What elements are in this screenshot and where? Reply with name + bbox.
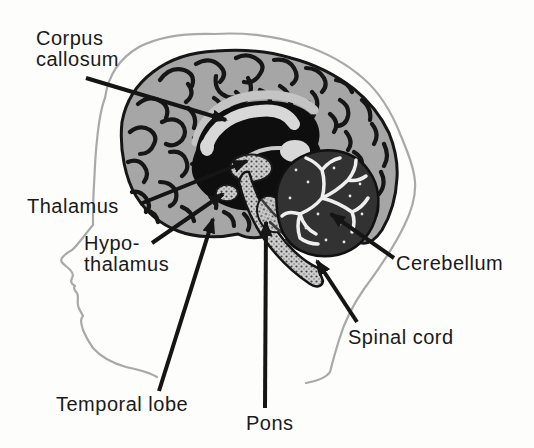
label-temporal-lobe: Temporal lobe xyxy=(56,394,188,415)
label-line: Hypo- xyxy=(84,233,169,254)
label-spinal-cord: Spinal cord xyxy=(348,327,454,348)
arrow-pons xyxy=(265,222,266,408)
label-pons: Pons xyxy=(246,413,294,434)
label-thalamus: Thalamus xyxy=(27,196,119,217)
label-line: Corpus xyxy=(36,28,119,49)
label-hypothalamus: Hypo-thalamus xyxy=(84,233,169,275)
label-line: Temporal lobe xyxy=(56,394,188,415)
label-line: Cerebellum xyxy=(396,253,503,274)
label-line: Pons xyxy=(246,413,294,434)
label-line: Spinal cord xyxy=(348,327,454,348)
label-cerebellum: Cerebellum xyxy=(396,253,503,274)
label-line: Thalamus xyxy=(27,196,119,217)
label-line: callosum xyxy=(36,49,119,70)
arrow-spinal-cord xyxy=(317,261,357,322)
figure-brain-diagram: CorpuscallosumThalamusHypo-thalamusTempo… xyxy=(0,0,534,448)
label-line: thalamus xyxy=(84,254,169,275)
label-corpus-callosum: Corpuscallosum xyxy=(36,28,119,70)
